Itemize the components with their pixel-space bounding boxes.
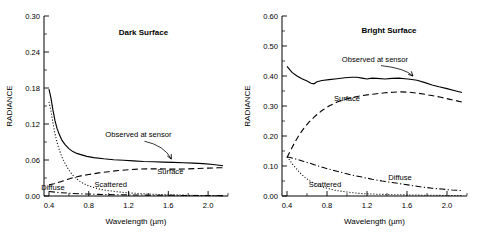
chart-panel-dark-surface: 0.000.060.120.180.240.300.40.81.21.62.0D… [0, 0, 238, 243]
curve-annotation-observed-at-sensor: Observed at sensor [105, 130, 172, 139]
y-tick-label: 0.00 [25, 192, 40, 201]
curve-annotation-scattered: Scattered [94, 180, 127, 189]
y-tick-label: 0.10 [263, 162, 278, 171]
annotation-leader-arrow [381, 66, 413, 76]
series-observed-at-sensor [49, 89, 223, 166]
y-tick-label: 0.12 [25, 120, 40, 129]
curve-annotation-diffuse: Diffuse [41, 183, 65, 192]
x-axis-title: Wavelength (µm) [106, 217, 167, 226]
series-scattered [49, 102, 223, 196]
y-tick-label: 0.30 [25, 12, 40, 21]
x-tick-label: 0.4 [282, 201, 293, 210]
y-axis-title: RADIANCE [243, 85, 252, 126]
series-observed-at-sensor [287, 66, 462, 92]
x-tick-label: 0.4 [44, 201, 55, 210]
x-tick-label: 1.2 [123, 201, 134, 210]
curve-annotation-surface: Surface [157, 167, 183, 176]
y-tick-label: 0.50 [263, 42, 278, 51]
x-tick-label: 1.6 [402, 201, 413, 210]
panel-title: Bright Surface [361, 26, 417, 35]
panel-title: Dark Surface [119, 28, 169, 37]
series-surface [49, 168, 223, 185]
y-axis-title: RADIANCE [5, 85, 14, 126]
curve-annotation-scattered: Scattered [309, 180, 342, 189]
chart-svg-bright-surface: 0.000.100.200.300.400.500.600.40.81.21.6… [238, 0, 477, 243]
chart-panel-bright-surface: 0.000.100.200.300.400.500.600.40.81.21.6… [238, 0, 477, 243]
x-tick-label: 0.8 [83, 201, 94, 210]
x-tick-label: 1.2 [362, 201, 373, 210]
y-tick-label: 0.30 [263, 102, 278, 111]
y-tick-label: 0.20 [263, 132, 278, 141]
y-tick-label: 0.00 [263, 192, 278, 201]
series-scattered [287, 157, 462, 196]
x-axis-title: Wavelength (µm) [344, 217, 405, 226]
y-tick-label: 0.18 [25, 84, 40, 93]
curve-annotation-surface: Surface [334, 94, 360, 103]
series-diffuse [49, 192, 223, 196]
x-tick-label: 2.0 [442, 201, 453, 210]
curve-annotation-observed-at-sensor: Observed at sensor [342, 55, 409, 64]
axis-frame [282, 16, 467, 196]
y-tick-label: 0.06 [25, 156, 40, 165]
curve-annotation-diffuse: Diffuse [388, 173, 412, 182]
radiance-figure: 0.000.060.120.180.240.300.40.81.21.62.0D… [0, 0, 477, 243]
x-tick-label: 0.8 [322, 201, 333, 210]
y-tick-label: 0.60 [263, 12, 278, 21]
x-tick-label: 1.6 [163, 201, 174, 210]
x-tick-label: 2.0 [203, 201, 214, 210]
chart-svg-dark-surface: 0.000.060.120.180.240.300.40.81.21.62.0D… [0, 0, 238, 243]
annotation-arrowhead [167, 154, 171, 159]
y-tick-label: 0.24 [25, 48, 40, 57]
series-surface [287, 92, 462, 158]
y-tick-label: 0.40 [263, 72, 278, 81]
